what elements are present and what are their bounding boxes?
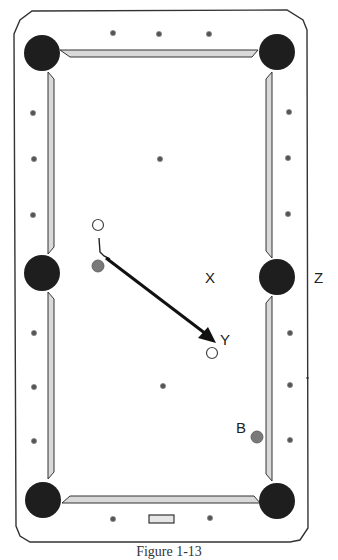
spot-icon: [157, 156, 162, 161]
diamond-icon: [206, 31, 211, 36]
pocket-side-right: [259, 259, 295, 295]
diamond-icon: [285, 155, 290, 160]
diamond-icon: [285, 211, 290, 216]
rail-left-upper: [48, 72, 54, 254]
diamond-icon: [156, 31, 161, 36]
pocket-side-left: [24, 255, 60, 291]
rail-top: [60, 50, 258, 57]
figure-caption: Figure 1-13: [0, 544, 338, 560]
spot-icon: [160, 383, 165, 388]
label-b: B: [236, 419, 246, 436]
pocket-top-right: [259, 34, 295, 70]
diamond-icon: [30, 110, 35, 115]
pocket-bottom-left: [25, 482, 61, 518]
diamond-icon: [110, 30, 115, 35]
diamond-icon: [110, 516, 115, 521]
diamond-icon: [287, 382, 292, 387]
head-marker: [149, 515, 174, 523]
rail-right-lower: [266, 296, 272, 481]
label-z: Z: [314, 269, 323, 286]
label-y: Y: [220, 331, 230, 348]
diamond-icon: [31, 384, 36, 389]
diamond-icon: [287, 437, 292, 442]
diamond-icon: [31, 330, 36, 335]
rail-bottom: [62, 496, 260, 503]
label-x: X: [205, 269, 215, 286]
diamond-icon: [30, 212, 35, 217]
pocket-bottom-right: [259, 483, 295, 519]
diamond-icon: [31, 438, 36, 443]
diamond-icon: [286, 109, 291, 114]
cue-ball-start: [93, 220, 104, 231]
diamond-icon: [31, 156, 36, 161]
ball-b: [251, 431, 263, 443]
diamond-icon: [287, 330, 292, 335]
object-ball: [92, 260, 104, 272]
rail-right-upper: [266, 72, 272, 258]
cue-ball-end: [207, 348, 218, 359]
rail-left-lower: [48, 292, 54, 479]
diamond-icon: [207, 515, 212, 520]
pocket-top-left: [24, 35, 60, 71]
